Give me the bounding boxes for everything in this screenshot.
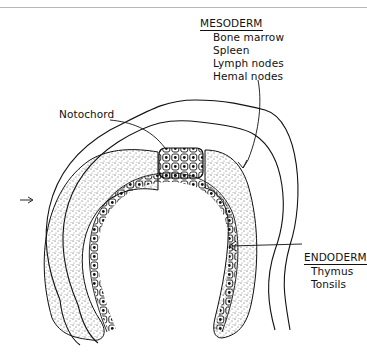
mesoderm-item: Hemal nodes [213,70,284,83]
notochord [159,148,203,178]
endoderm-item: Tonsils [311,278,367,291]
endoderm-cell-lining [94,178,233,330]
endoderm-label-group: ENDODERM Thymus Tonsils [304,251,367,291]
endoderm-item: Thymus [311,265,367,278]
mesoderm-item: Spleen [213,44,284,57]
mesoderm-item: Lymph nodes [213,57,284,70]
embryo-cross-section-drawing [0,0,367,358]
mesoderm-heading: MESODERM [200,17,263,31]
endoderm-heading: ENDODERM [304,251,367,265]
mesoderm-label-group: MESODERM Bone marrow Spleen Lymph nodes … [200,17,284,83]
mesoderm-item: Bone marrow [213,31,284,44]
notochord-label: Notochord [59,108,114,121]
